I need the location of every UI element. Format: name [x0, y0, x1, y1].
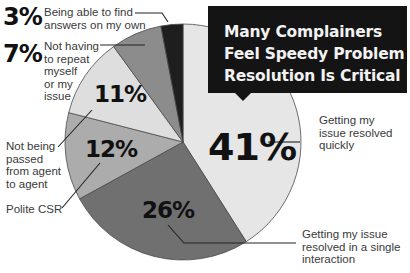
chart-title-box: Many Complainers Feel Speedy Problem Res…: [208, 6, 407, 93]
callout-text-7: Not having to repeat myself or my issue: [44, 40, 99, 103]
callout-text-26: Getting my issue resolved in a single in…: [302, 228, 400, 266]
pct-label-12: 12%: [85, 138, 137, 161]
pct-label-7: 7%: [3, 42, 42, 66]
title-pointer-arrow: [234, 92, 252, 101]
callout-text-41: Getting my issue resolved quickly: [319, 114, 393, 152]
pct-label-41: 41%: [208, 128, 296, 166]
callout-text-3: Being able to find answers on my own: [44, 6, 146, 31]
pct-label-11: 11%: [94, 83, 146, 106]
chart-title: Many Complainers Feel Speedy Problem Res…: [224, 21, 407, 87]
pct-label-26: 26%: [142, 199, 194, 222]
callout-text-12: Polite CSR: [6, 203, 62, 216]
pct-label-3: 3%: [3, 5, 42, 29]
callout-text-11: Not being passed from agent to agent: [6, 140, 61, 190]
